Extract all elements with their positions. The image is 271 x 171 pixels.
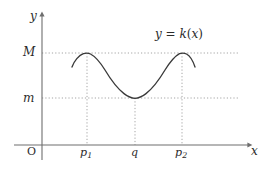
curve-eq-close-paren: ) (198, 27, 203, 41)
x-tick-p2-subscript: 2 (182, 151, 187, 160)
math-figure: y x O M m p1 q p2 y = k(x) (0, 0, 271, 171)
y-tick-label-m: m (23, 92, 34, 104)
x-tick-label-p1: p1 (80, 147, 92, 160)
x-tick-label-q: q (131, 147, 138, 158)
curve-equation-label: y = k(x) (155, 28, 203, 40)
x-axis-label: x (251, 145, 258, 157)
x-tick-q-base: q (131, 146, 138, 159)
curve-eq-equals: = (162, 27, 180, 41)
y-axis-label: y (30, 10, 37, 22)
curve-eq-y: y (155, 27, 162, 41)
x-tick-label-p2: p2 (175, 147, 187, 160)
function-curve (72, 53, 195, 98)
curve-eq-func: k (179, 27, 186, 41)
y-tick-label-M: M (23, 46, 35, 58)
x-tick-p1-base: p (80, 146, 87, 159)
origin-label: O (27, 146, 36, 157)
x-tick-p2-base: p (175, 146, 182, 159)
x-tick-p1-subscript: 1 (87, 151, 92, 160)
